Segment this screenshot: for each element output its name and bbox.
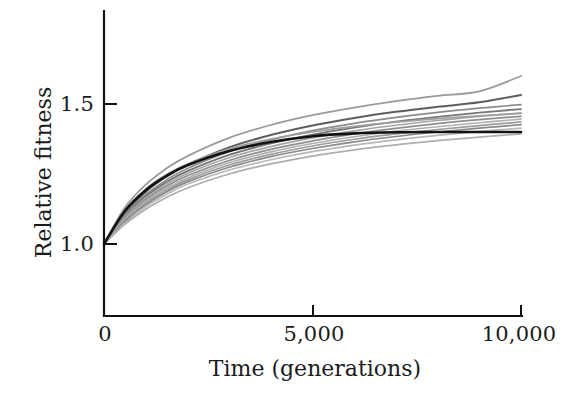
x-tick-label-5000: 5,000 [268, 322, 360, 346]
chart-figure: 1.5 1.0 0 5,000 10,000 Time (generations… [0, 0, 575, 393]
x-tick-label-10000: 10,000 [464, 322, 574, 346]
x-tick-label-0: 0 [90, 322, 120, 346]
curve-population-1 [104, 76, 521, 244]
y-axis-title: Relative fitness [31, 68, 56, 278]
x-axis-title: Time (generations) [125, 356, 505, 381]
curve-series-group [104, 76, 521, 244]
axes-group [104, 11, 522, 316]
